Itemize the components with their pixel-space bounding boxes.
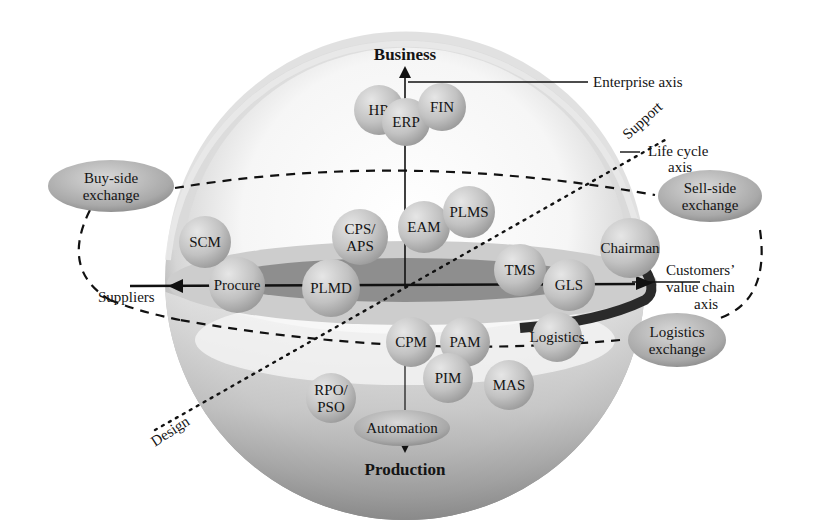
module-label: RPO/ bbox=[314, 382, 348, 398]
module-label: MAS bbox=[493, 377, 526, 393]
module-label: EAM bbox=[407, 219, 440, 235]
enterprise-axis-caption: Enterprise axis bbox=[593, 74, 683, 90]
exchange-buy-side: Buy-sideexchange bbox=[48, 160, 174, 212]
module-fin: FIN bbox=[418, 83, 466, 131]
support-label: Support bbox=[619, 98, 666, 142]
module-label: CPM bbox=[395, 334, 427, 350]
exchange-label: Buy-side bbox=[84, 170, 139, 186]
exchange-label: Logistics bbox=[650, 324, 705, 340]
exchange-label: Automation bbox=[366, 420, 438, 436]
design-label: Design bbox=[148, 413, 193, 450]
module-cpm: CPM bbox=[386, 317, 436, 367]
module-label: TMS bbox=[505, 262, 536, 278]
module-label: ERP bbox=[392, 114, 420, 130]
module-label: PLMS bbox=[449, 204, 488, 220]
module-plms: PLMS bbox=[443, 186, 495, 238]
module-label: Procure bbox=[214, 277, 261, 293]
production-label: Production bbox=[365, 460, 446, 479]
life-cycle-caption-2: axis bbox=[668, 159, 692, 175]
exchange-sell-side: Sell-sideexchange bbox=[658, 170, 762, 222]
module-label: APS bbox=[346, 238, 374, 254]
exchange-label: exchange bbox=[649, 341, 706, 357]
module-pim: PIM bbox=[423, 353, 473, 403]
module-eam: EAM bbox=[398, 201, 450, 253]
module-label: PAM bbox=[449, 334, 480, 350]
module-procure: Procure bbox=[209, 257, 265, 313]
module-label: FIN bbox=[430, 99, 454, 115]
ebusiness-sphere-diagram: HRERPFINSCMCPS/APSEAMPLMSChairmanProcure… bbox=[0, 0, 827, 531]
module-label: SCM bbox=[189, 234, 221, 250]
exchange-logistics-exchange: Logisticsexchange bbox=[628, 313, 726, 367]
module-label: GLS bbox=[555, 277, 583, 293]
suppliers-label: Suppliers bbox=[98, 289, 155, 305]
module-scm: SCM bbox=[179, 216, 231, 268]
customers-caption-1: Customers’ bbox=[666, 262, 735, 278]
module-label: PLMD bbox=[310, 280, 352, 296]
exchange-automation: Automation bbox=[354, 410, 450, 446]
module-label: Logistics bbox=[530, 329, 585, 345]
customers-caption-3: axis bbox=[694, 296, 718, 312]
exchange-label: exchange bbox=[83, 187, 140, 203]
module-label: CPS/ bbox=[345, 221, 377, 237]
diagram-canvas: HRERPFINSCMCPS/APSEAMPLMSChairmanProcure… bbox=[0, 0, 827, 531]
module-gls: GLS bbox=[543, 259, 595, 311]
module-plmd: PLMD bbox=[302, 259, 360, 317]
module-label: Chairman bbox=[600, 240, 660, 256]
module-mas: MAS bbox=[484, 360, 534, 410]
life-cycle-caption-1: Life cycle bbox=[648, 143, 709, 159]
module-rpo-pso: RPO/PSO bbox=[306, 373, 356, 423]
module-label: PSO bbox=[317, 399, 345, 415]
exchange-label: exchange bbox=[682, 197, 739, 213]
exchange-label: Sell-side bbox=[684, 180, 737, 196]
module-tms: TMS bbox=[494, 244, 546, 296]
business-label: Business bbox=[374, 45, 437, 64]
module-cps-aps: CPS/APS bbox=[332, 209, 388, 265]
module-chairman: Chairman bbox=[600, 218, 660, 278]
module-label: PIM bbox=[435, 370, 462, 386]
customers-caption-2: value chain bbox=[666, 279, 735, 295]
